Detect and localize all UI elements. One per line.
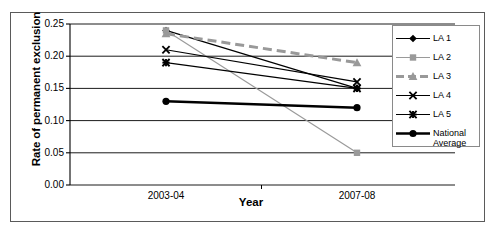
data-point-marker	[409, 35, 417, 43]
legend-symbol	[393, 86, 433, 105]
legend-label: LA 2	[433, 48, 451, 63]
x-tick-label: 2007-08	[317, 190, 397, 201]
legend-item: LA 4	[393, 86, 479, 105]
legend-label: LA 5	[433, 105, 451, 120]
data-point-marker	[409, 111, 416, 118]
x-axis-title: Year	[196, 196, 306, 208]
chart-legend: LA 1LA 2LA 3LA 4LA 5National Average	[392, 25, 480, 147]
legend-label: LA 4	[433, 86, 451, 101]
legend-label: LA 1	[433, 29, 451, 44]
legend-item: LA 1	[393, 29, 479, 48]
legend-key-la-3	[393, 67, 433, 86]
legend-symbol	[393, 29, 433, 48]
legend-item: LA 2	[393, 48, 479, 67]
legend-symbol	[393, 124, 433, 143]
legend-item: National Average	[393, 124, 479, 150]
legend-label: LA 3	[433, 67, 451, 82]
x-tick-label: 2003-04	[126, 190, 206, 201]
legend-item: LA 3	[393, 67, 479, 86]
legend-symbol	[393, 67, 433, 86]
data-point-marker	[410, 54, 416, 60]
chart-figure: Rate of permanent exclusion 0.000.050.10…	[0, 0, 493, 234]
data-point-marker	[409, 130, 416, 137]
legend-symbol	[393, 48, 433, 67]
legend-key-la-1	[393, 29, 433, 48]
legend-key-national-average	[393, 124, 433, 143]
legend-symbol	[393, 105, 433, 124]
legend-key-la-5	[393, 105, 433, 124]
legend-key-la-4	[393, 86, 433, 105]
legend-label: National Average	[433, 124, 466, 148]
legend-item: LA 5	[393, 105, 479, 124]
legend-key-la-2	[393, 48, 433, 67]
